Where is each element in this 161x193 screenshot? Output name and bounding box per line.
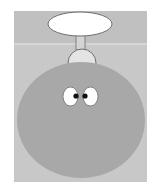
bomb-neck <box>76 35 85 50</box>
right-pupil <box>82 93 87 98</box>
top-ellipse-balloon <box>48 12 112 36</box>
illustration-canvas <box>0 0 161 193</box>
bomb-character-illustration <box>0 0 161 193</box>
left-pupil <box>73 93 78 98</box>
bomb-body <box>17 62 145 178</box>
